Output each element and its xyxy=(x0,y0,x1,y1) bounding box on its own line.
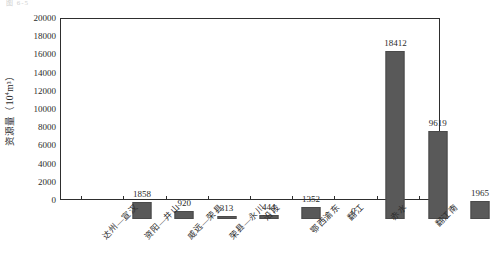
x-axis-ticks: 达州—宣汉资阳—井山威远—荣县荣县—永川沿段鄂西渝东翻江赤水翻江南 xyxy=(60,200,440,260)
x-tick-label: 赤水 xyxy=(388,202,408,222)
y-axis-ticks: 0200040006000800010000120001400016000180… xyxy=(0,18,60,200)
x-tick-label: 达州—宣汉 xyxy=(100,202,139,241)
bar-value-label: 1965 xyxy=(471,189,489,198)
bar-series: 1858920313444135201841296191965 xyxy=(121,37,494,219)
x-tick-mark xyxy=(208,196,209,200)
bar-value-label: 9619 xyxy=(429,119,447,128)
bar-slot: 18412 xyxy=(374,37,416,219)
y-tick-label: 10000 xyxy=(34,105,57,114)
y-tick-label: 20000 xyxy=(34,14,57,23)
y-tick-label: 12000 xyxy=(34,86,57,95)
plot-area: 1858920313444135201841296191965 xyxy=(60,18,440,200)
clipped-caption-text: 图 6-5 xyxy=(6,0,66,7)
y-tick-label: 8000 xyxy=(38,123,56,132)
x-tick-label: 沿段 xyxy=(261,202,281,222)
bar-slot: 1965 xyxy=(459,37,494,219)
x-tick-label: 威远—荣县 xyxy=(185,202,224,241)
bar-slot: 313 xyxy=(205,37,247,219)
bar-slot: 444 xyxy=(248,37,290,219)
y-tick-label: 0 xyxy=(52,196,57,205)
y-tick-label: 2000 xyxy=(38,177,56,186)
bar-slot: 1352 xyxy=(290,37,332,219)
x-tick-mark xyxy=(419,196,420,200)
x-tick-label: 翻江 xyxy=(346,202,366,222)
bar-value-label: 18412 xyxy=(384,39,407,48)
x-tick-label: 荣县—永川 xyxy=(227,202,266,241)
x-tick-label: 鄂西渝东 xyxy=(309,202,342,235)
bar-slot: 9619 xyxy=(417,37,459,219)
x-tick-mark xyxy=(166,196,167,200)
y-tick-label: 6000 xyxy=(38,141,56,150)
bar-value-label: 1858 xyxy=(133,190,151,199)
x-tick-mark xyxy=(377,196,378,200)
y-tick-label: 18000 xyxy=(34,32,57,41)
bar xyxy=(470,201,489,219)
x-tick-mark xyxy=(123,196,124,200)
x-tick-mark xyxy=(334,196,335,200)
bar-slot: 1858 xyxy=(121,37,163,219)
y-tick-label: 16000 xyxy=(34,50,57,59)
x-tick-label: 资阳—井山 xyxy=(143,202,182,241)
y-tick-label: 14000 xyxy=(34,68,57,77)
bar-slot: 0 xyxy=(332,37,374,219)
x-tick-mark xyxy=(250,196,251,200)
x-tick-mark xyxy=(292,196,293,200)
bar-slot: 920 xyxy=(163,37,205,219)
x-tick-mark xyxy=(81,196,82,200)
y-tick-label: 4000 xyxy=(38,159,56,168)
bar xyxy=(386,51,405,219)
